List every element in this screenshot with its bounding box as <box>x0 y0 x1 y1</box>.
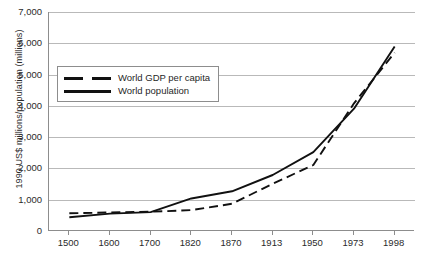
y-axis-title: 1990 US$ millions/population (millions) <box>14 0 24 222</box>
solid-line-icon <box>64 86 111 96</box>
legend-item-gdp: World GDP per capita <box>64 71 210 84</box>
x-axis-tick-label: 1870 <box>208 238 254 248</box>
x-axis-tick-mark <box>68 231 69 235</box>
x-axis-tick-label: 1700 <box>127 238 173 248</box>
x-axis-tick-label: 1998 <box>371 238 417 248</box>
x-axis-tick-mark <box>190 231 191 235</box>
y-axis-tick-label: 1,000 <box>2 195 42 205</box>
x-axis-tick-label: 1820 <box>167 238 213 248</box>
x-axis-tick-mark <box>109 231 110 235</box>
x-axis-tick-mark <box>272 231 273 235</box>
x-axis-tick-mark <box>231 231 232 235</box>
x-axis-tick-mark <box>394 231 395 235</box>
x-axis-tick-mark <box>150 231 151 235</box>
legend-label-gdp: World GDP per capita <box>118 73 210 83</box>
series-lines <box>49 12 415 231</box>
legend-item-population: World population <box>64 84 210 97</box>
y-axis-tick-label: 4,000 <box>2 101 42 111</box>
figure-caption <box>6 261 306 269</box>
y-axis-tick-label: 0 <box>2 226 42 236</box>
x-axis-tick-mark <box>353 231 354 235</box>
x-axis-tick-label: 1973 <box>330 238 376 248</box>
plot-area <box>48 12 414 231</box>
y-axis-tick-label: 2,000 <box>2 163 42 173</box>
x-axis-tick-label: 1600 <box>86 238 132 248</box>
y-axis-tick-label: 3,000 <box>2 132 42 142</box>
x-axis-tick-label: 1950 <box>289 238 335 248</box>
x-axis-tick-mark <box>312 231 313 235</box>
chart-figure: 1990 US$ millions/population (millions) … <box>0 0 422 269</box>
x-axis-tick-label: 1913 <box>249 238 295 248</box>
y-axis-tick-label: 6,000 <box>2 38 42 48</box>
legend-label-population: World population <box>118 86 189 96</box>
x-axis-tick-label: 1500 <box>45 238 91 248</box>
chart-legend: World GDP per capita World population <box>57 66 219 102</box>
y-axis-tick-label: 7,000 <box>2 7 42 17</box>
dashed-line-icon <box>64 73 111 83</box>
y-axis-tick-label: 5,000 <box>2 70 42 80</box>
